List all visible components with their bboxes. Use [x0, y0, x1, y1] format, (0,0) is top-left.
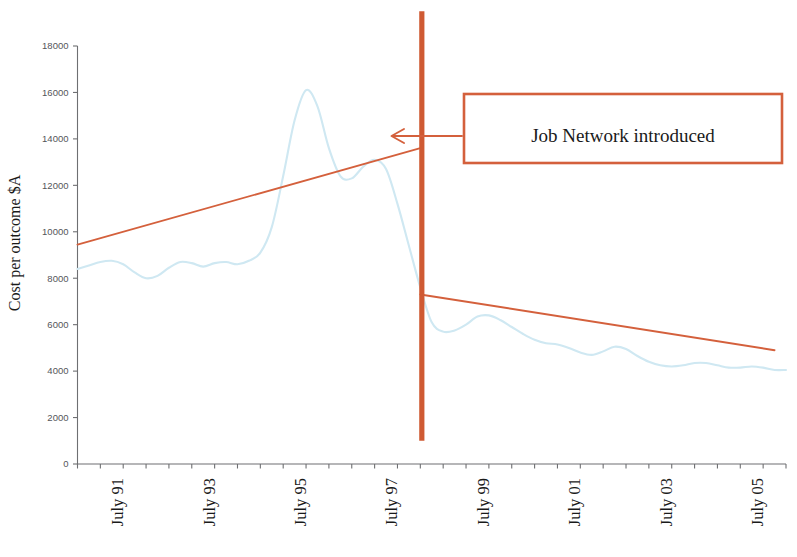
y-axis-title: Cost per outcome $A [6, 174, 24, 311]
post-event-trend-line [420, 294, 774, 350]
y-tick-label: 4000 [47, 365, 68, 376]
y-tick-label: 0 [63, 458, 68, 469]
y-tick-label: 8000 [47, 273, 68, 284]
y-axis-title-text: Cost per outcome $A [6, 174, 24, 311]
chart-canvas: Cost per outcome $A 02000400060008000100… [0, 0, 797, 557]
x-axis: July 91July 93July 95July 97July 99July … [78, 464, 787, 526]
x-tick-label: July 91 [108, 478, 127, 526]
cost-per-outcome-chart: Cost per outcome $A 02000400060008000100… [0, 0, 797, 557]
x-axis-ticks [78, 464, 787, 469]
annotation-arrow [392, 129, 463, 143]
x-axis-labels: July 91July 93July 95July 97July 99July … [108, 478, 767, 526]
x-tick-label: July 03 [657, 478, 676, 526]
annotation-box-group[interactable]: Job Network introduced [464, 94, 782, 163]
pre-event-trend-line [78, 148, 421, 244]
trend-lines-group [78, 148, 775, 350]
y-tick-label: 18000 [42, 40, 68, 51]
x-tick-label: July 99 [474, 478, 493, 526]
x-tick-label: July 97 [382, 478, 401, 526]
x-tick-label: July 05 [748, 478, 767, 526]
y-axis: 0200040006000800010000120001400016000180… [42, 40, 77, 469]
y-tick-label: 16000 [42, 87, 68, 98]
y-tick-label: 14000 [42, 133, 68, 144]
x-tick-label: July 01 [565, 478, 584, 526]
annotation-label: Job Network introduced [531, 125, 715, 146]
y-tick-label: 2000 [47, 412, 68, 423]
x-tick-label: July 95 [291, 478, 310, 526]
x-tick-label: July 93 [200, 478, 219, 526]
y-axis-ticks: 0200040006000800010000120001400016000180… [42, 40, 77, 469]
y-tick-label: 6000 [47, 319, 68, 330]
y-tick-label: 12000 [42, 180, 68, 191]
y-tick-label: 10000 [42, 226, 68, 237]
